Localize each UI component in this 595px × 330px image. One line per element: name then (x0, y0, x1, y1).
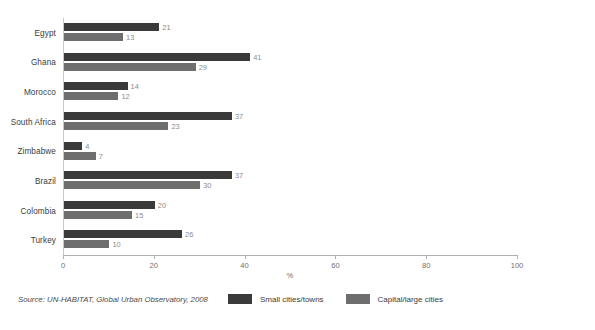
bar-value-label: 12 (121, 92, 129, 101)
bar-value-label: 14 (131, 82, 139, 91)
legend-swatch-icon (346, 294, 370, 304)
bar-small-cities: 37 (64, 171, 232, 179)
legend-label: Capital/large cities (378, 295, 443, 304)
bar-rect (64, 63, 196, 71)
category-row: Egypt2113 (63, 18, 517, 48)
bar-rect (64, 240, 109, 248)
category-row: South Africa3723 (63, 107, 517, 137)
bar-value-label: 21 (162, 23, 170, 32)
x-axis-line (63, 255, 518, 256)
legend-item[interactable]: Small cities/towns (228, 294, 324, 304)
plot-area: Egypt2113Ghana4129Morocco1412South Afric… (63, 18, 517, 255)
bar-capital-cities: 29 (64, 63, 196, 71)
x-axis-tick-label: 80 (422, 261, 430, 270)
bar-capital-cities: 7 (64, 152, 96, 160)
x-axis-tick-label: 40 (240, 261, 248, 270)
bar-capital-cities: 13 (64, 33, 123, 41)
bar-rect (64, 171, 232, 179)
bar-rect (64, 53, 250, 61)
bar-value-label: 7 (99, 151, 103, 160)
bar-value-label: 15 (135, 210, 143, 219)
bar-rect (64, 152, 96, 160)
chart-legend: Small cities/townsCapital/large cities (228, 294, 443, 304)
x-axis-tick (517, 255, 518, 259)
bar-rect (64, 112, 232, 120)
bar-small-cities: 26 (64, 230, 182, 238)
bar-value-label: 37 (235, 171, 243, 180)
bar-value-label: 41 (253, 52, 261, 61)
bar-capital-cities: 23 (64, 122, 168, 130)
category-label: Zimbabwe (17, 147, 56, 156)
bar-rect (64, 92, 118, 100)
category-row: Brazil3730 (63, 166, 517, 196)
x-axis-tick-label: 20 (150, 261, 158, 270)
bar-small-cities: 20 (64, 201, 155, 209)
category-label: Colombia (21, 206, 56, 215)
category-label: Egypt (35, 28, 56, 37)
legend-swatch-icon (228, 294, 252, 304)
bar-rect (64, 122, 168, 130)
bar-small-cities: 14 (64, 82, 128, 90)
category-label: Morocco (24, 88, 56, 97)
category-label: Turkey (31, 236, 56, 245)
x-axis-tick (245, 255, 246, 259)
bar-capital-cities: 30 (64, 181, 200, 189)
x-axis-tick-label: 100 (511, 261, 524, 270)
bar-value-label: 4 (85, 141, 89, 150)
bar-rect (64, 181, 200, 189)
category-row: Morocco1412 (63, 77, 517, 107)
bar-small-cities: 41 (64, 53, 250, 61)
x-axis-tick (154, 255, 155, 259)
category-row: Ghana4129 (63, 48, 517, 78)
bar-capital-cities: 10 (64, 240, 109, 248)
bar-rect (64, 201, 155, 209)
bar-capital-cities: 12 (64, 92, 118, 100)
x-axis-tick (335, 255, 336, 259)
x-axis-tick (426, 255, 427, 259)
bar-value-label: 26 (185, 230, 193, 239)
bar-value-label: 20 (158, 200, 166, 209)
bar-rect (64, 33, 123, 41)
bar-chart-figure: Egypt2113Ghana4129Morocco1412South Afric… (0, 0, 595, 330)
bar-rect (64, 23, 159, 31)
bar-rect (64, 230, 182, 238)
bar-rect (64, 211, 132, 219)
category-row: Turkey2610 (63, 225, 517, 255)
bar-small-cities: 21 (64, 23, 159, 31)
bar-small-cities: 4 (64, 142, 82, 150)
category-label: Ghana (31, 58, 56, 67)
bar-value-label: 13 (126, 33, 134, 42)
source-note: Source: UN-HABITAT, Global Urban Observa… (18, 295, 208, 304)
bar-value-label: 37 (235, 111, 243, 120)
bar-rect (64, 142, 82, 150)
x-axis-title: % (287, 271, 294, 280)
bar-small-cities: 37 (64, 112, 232, 120)
category-row: Colombia2015 (63, 196, 517, 226)
bar-capital-cities: 15 (64, 211, 132, 219)
bar-value-label: 10 (112, 240, 120, 249)
category-row: Zimbabwe47 (63, 137, 517, 167)
bar-rect (64, 82, 128, 90)
x-axis-tick-label: 60 (331, 261, 339, 270)
legend-label: Small cities/towns (260, 295, 324, 304)
legend-item[interactable]: Capital/large cities (346, 294, 443, 304)
x-axis-tick-label: 0 (61, 261, 65, 270)
bar-value-label: 29 (199, 62, 207, 71)
bar-value-label: 30 (203, 181, 211, 190)
bar-value-label: 23 (171, 121, 179, 130)
category-label: Brazil (35, 176, 56, 185)
x-axis-tick (63, 255, 64, 259)
category-label: South Africa (11, 117, 56, 126)
